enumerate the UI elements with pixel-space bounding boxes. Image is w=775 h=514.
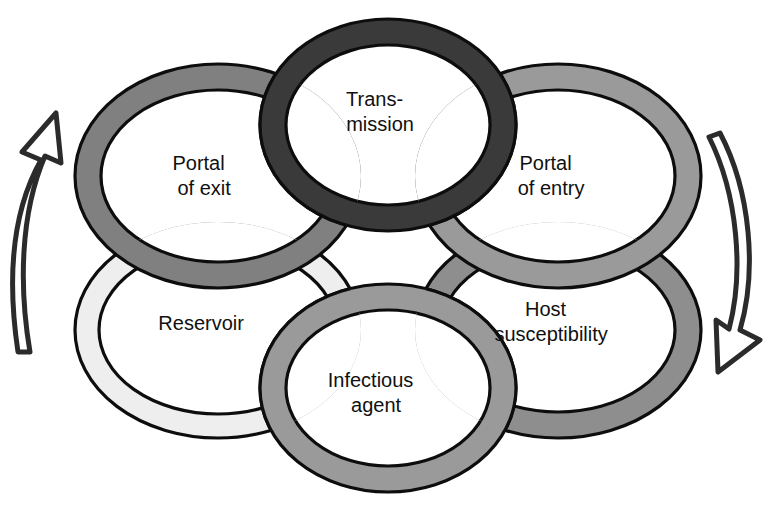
label-host-susceptibility-line1: Host [525, 298, 567, 320]
label-reservoir: Reservoir [158, 312, 271, 334]
label-portal-of-entry-line2: of entry [518, 177, 585, 199]
label-transmission-line2: mission [346, 113, 414, 135]
label-portal-of-entry-line1: Portal [519, 152, 571, 174]
label-transmission-line1: Trans- [346, 88, 403, 110]
left-arrow-icon [13, 113, 61, 352]
label-infectious-agent-line2: agent [351, 394, 401, 416]
chain-of-infection-diagram: Portal of exit Trans- mission Portal of … [0, 0, 775, 514]
left-arrow-path [13, 113, 61, 352]
right-arrow-path [709, 133, 760, 372]
label-host-susceptibility-line2: susceptibility [494, 323, 607, 345]
label-portal-of-exit-line1: Portal [172, 152, 224, 174]
label-infectious-agent-line1: Infectious [328, 369, 414, 391]
label-reservoir-line1: Reservoir [158, 312, 244, 334]
label-portal-of-exit-line2: of exit [177, 177, 231, 199]
chain-rings-svg: Portal of exit Trans- mission Portal of … [0, 0, 775, 514]
right-arrow-icon [709, 133, 760, 372]
